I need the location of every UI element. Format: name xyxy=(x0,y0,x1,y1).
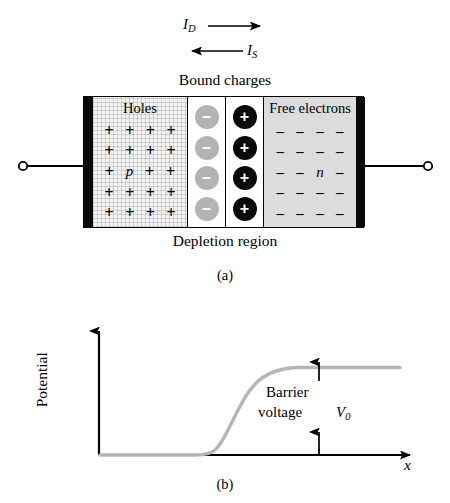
n-region-charge-grid: – – – – – – – – – – n – – xyxy=(264,118,356,226)
graph-y-axis-label: Potential xyxy=(34,325,50,435)
hole-plus: + xyxy=(105,205,114,221)
p-region-charge-grid: + + + + + + + + + p + + + xyxy=(93,118,187,226)
electron-minus: – xyxy=(296,124,304,139)
p-type-region: Holes + + + + + + + + + p + xyxy=(93,97,188,227)
negative-bound-charge-stack: – – – – xyxy=(188,99,225,227)
bound-charge-positive-icon: + xyxy=(233,197,257,221)
plus-glyph: + xyxy=(233,197,257,221)
electron-minus: – xyxy=(296,144,304,159)
minus-glyph: – xyxy=(195,105,219,129)
p-carrier-symbol: p xyxy=(126,164,134,179)
electron-minus: – xyxy=(276,144,284,159)
label-saturation-current: IS xyxy=(247,43,257,60)
hole-plus: + xyxy=(145,164,154,180)
pn-junction-device: Holes + + + + + + + + + p + xyxy=(83,96,364,228)
charge-row: – – – – xyxy=(264,144,356,159)
electron-minus: – xyxy=(316,124,324,139)
bound-charge-positive-icon: + xyxy=(233,105,257,129)
plus-glyph: + xyxy=(233,166,257,190)
charge-row: – – – – xyxy=(264,185,356,200)
n-carrier-symbol: n xyxy=(316,165,324,180)
electron-minus: – xyxy=(276,185,284,200)
hole-plus: + xyxy=(105,123,114,139)
barrier-voltage-symbol: V0 xyxy=(336,405,350,422)
bound-charge-positive-icon: + xyxy=(233,136,257,160)
label-depletion-region: Depletion region xyxy=(0,233,450,249)
hole-plus: + xyxy=(166,185,175,201)
p-region-title: Holes xyxy=(93,100,187,117)
positive-bound-charge-column: + + + + xyxy=(226,97,264,227)
plus-glyph: + xyxy=(233,136,257,160)
metal-contact-right xyxy=(356,97,365,227)
bound-charge-negative-icon: – xyxy=(195,136,219,160)
bound-charge-negative-icon: – xyxy=(195,105,219,129)
hole-plus: + xyxy=(166,205,175,221)
positive-bound-charge-stack: + + + + xyxy=(226,99,263,227)
electron-minus: – xyxy=(316,185,324,200)
graph-x-axis-label: x xyxy=(404,457,411,473)
electron-minus: – xyxy=(296,165,304,180)
electron-minus: – xyxy=(296,206,304,221)
bound-charge-positive-icon: + xyxy=(233,166,257,190)
figure-pn-junction: ID IS Bound charges Holes + + + + + + + … xyxy=(0,0,450,503)
charge-row: – – – – xyxy=(264,124,356,139)
barrier-annotation-line1: Barrier xyxy=(266,385,308,400)
hole-plus: + xyxy=(166,164,175,180)
hole-plus: + xyxy=(166,123,175,139)
hole-plus: + xyxy=(146,185,155,201)
electron-minus: – xyxy=(336,165,344,180)
hole-plus: + xyxy=(146,123,155,139)
charge-row: + + + + xyxy=(93,143,187,159)
bound-charge-negative-icon: – xyxy=(195,166,219,190)
charge-row: + + + + xyxy=(93,205,187,221)
charge-row: + p + + xyxy=(93,164,187,180)
hole-plus: + xyxy=(105,164,114,180)
hole-plus: + xyxy=(166,143,175,159)
caption-panel-b: (b) xyxy=(0,477,450,492)
electron-minus: – xyxy=(276,124,284,139)
label-diffusion-current: ID xyxy=(183,17,196,34)
metal-contact-left xyxy=(84,97,93,227)
charge-row: – – n – xyxy=(264,165,356,180)
charge-row: + + + + xyxy=(93,185,187,201)
hole-plus: + xyxy=(146,143,155,159)
terminal-lead-left xyxy=(19,162,84,170)
bound-charge-negative-icon: – xyxy=(195,197,219,221)
hole-plus: + xyxy=(146,205,155,221)
hole-plus: + xyxy=(125,143,134,159)
charge-row: + + + + xyxy=(93,123,187,139)
electron-minus: – xyxy=(276,165,284,180)
hole-plus: + xyxy=(105,143,114,159)
hole-plus: + xyxy=(125,205,134,221)
minus-glyph: – xyxy=(195,197,219,221)
electron-minus: – xyxy=(296,185,304,200)
caption-panel-a: (a) xyxy=(0,268,450,283)
charge-row: – – – – xyxy=(264,206,356,221)
minus-glyph: – xyxy=(195,136,219,160)
hole-plus: + xyxy=(125,185,134,201)
electron-minus: – xyxy=(336,124,344,139)
n-region-title: Free electrons xyxy=(264,100,356,117)
barrier-annotation-line2: voltage xyxy=(258,405,302,420)
potential-curve xyxy=(100,368,400,456)
negative-bound-charge-column: – – – – xyxy=(188,97,226,227)
electron-minus: – xyxy=(316,144,324,159)
label-bound-charges: Bound charges xyxy=(0,72,450,88)
electron-minus: – xyxy=(336,144,344,159)
electron-minus: – xyxy=(316,206,324,221)
minus-glyph: – xyxy=(195,166,219,190)
plus-glyph: + xyxy=(233,105,257,129)
n-type-region: Free electrons – – – – – – – – – – n xyxy=(264,97,356,227)
hole-plus: + xyxy=(125,123,134,139)
electron-minus: – xyxy=(336,185,344,200)
terminal-lead-right xyxy=(363,162,432,170)
electron-minus: – xyxy=(336,206,344,221)
hole-plus: + xyxy=(105,185,114,201)
electron-minus: – xyxy=(276,206,284,221)
